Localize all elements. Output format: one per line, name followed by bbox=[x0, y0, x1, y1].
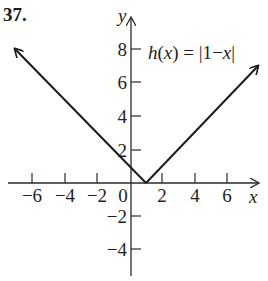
y-ticks bbox=[131, 49, 141, 249]
x-tick-label: 4 bbox=[190, 185, 200, 206]
y-tick-label: −4 bbox=[107, 239, 128, 260]
x-tick-label: −6 bbox=[22, 185, 42, 206]
x-tick-label: 2 bbox=[157, 185, 167, 206]
x-ticks bbox=[32, 173, 227, 183]
x-tick-label: −4 bbox=[55, 185, 76, 206]
origin-label: 0 bbox=[118, 185, 128, 206]
y-tick-label: −2 bbox=[107, 206, 127, 227]
x-tick-label: −2 bbox=[87, 185, 107, 206]
y-axis-label: y bbox=[116, 5, 127, 26]
y-tick-label: 4 bbox=[118, 106, 128, 127]
x-tick-label: 6 bbox=[222, 185, 232, 206]
graph-plot: −6 −4 −2 0 2 4 6 8 6 4 2 −2 −4 y x h(x) … bbox=[0, 0, 268, 281]
x-axis-label: x bbox=[248, 186, 258, 207]
y-tick-label: 8 bbox=[118, 39, 128, 60]
function-label: h(x) = |1−x| bbox=[148, 42, 235, 64]
y-tick-label: 6 bbox=[118, 72, 128, 93]
graph-right-branch bbox=[146, 66, 258, 183]
